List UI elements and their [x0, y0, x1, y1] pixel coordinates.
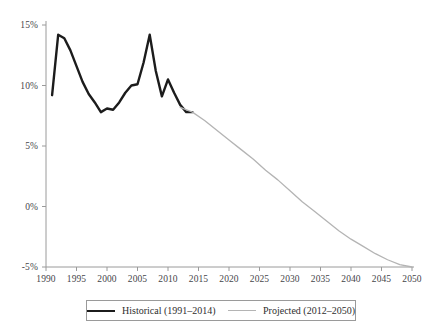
legend-entry-historical: Historical (1991–2014) — [87, 305, 216, 316]
legend-label-historical: Historical (1991–2014) — [122, 305, 216, 316]
x-tick-label: 2040 — [341, 274, 360, 284]
y-tick-label: 0% — [0, 202, 38, 212]
y-tick-label: 5% — [0, 141, 38, 151]
series-line-projected — [180, 107, 412, 267]
x-tick-label: 2050 — [402, 274, 421, 284]
series-line-historical — [52, 35, 192, 112]
x-tick-label: 2045 — [372, 274, 391, 284]
legend-label-projected: Projected (2012–2050) — [263, 305, 355, 316]
legend-line-historical-icon — [87, 310, 115, 312]
y-tick-label: 15% — [0, 20, 38, 30]
x-tick-label: 2025 — [250, 274, 269, 284]
x-tick-label: 2020 — [219, 274, 238, 284]
y-tick-label: 10% — [0, 81, 38, 91]
legend-line-projected-icon — [228, 310, 256, 311]
x-tick-label: 2010 — [158, 274, 177, 284]
y-tick-label: -5% — [0, 262, 38, 272]
x-tick-label: 2005 — [128, 274, 147, 284]
legend-entry-projected: Projected (2012–2050) — [228, 305, 355, 316]
x-tick-label: 2035 — [311, 274, 330, 284]
x-tick-label: 1995 — [67, 274, 86, 284]
x-tick-label: 2000 — [97, 274, 116, 284]
x-tick-label: 2030 — [280, 274, 299, 284]
x-tick-label: 2015 — [189, 274, 208, 284]
chart-legend: Historical (1991–2014) Projected (2012–2… — [86, 300, 356, 321]
chart-container: 15%10%5%0%-5% 19901995200020052010201520… — [0, 0, 430, 332]
x-tick-label: 1990 — [36, 274, 55, 284]
plot-area — [0, 0, 430, 332]
